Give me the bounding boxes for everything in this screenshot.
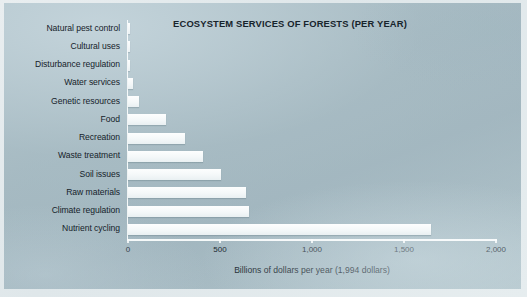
chart-category-row: Nutrient cycling bbox=[4, 221, 521, 239]
chart-category-row: Climate regulation bbox=[4, 203, 521, 221]
chart-plate: ECOSYSTEM SERVICES OF FORESTS (PER YEAR)… bbox=[4, 3, 521, 289]
chart-title: ECOSYSTEM SERVICES OF FORESTS (PER YEAR) bbox=[160, 18, 420, 29]
figure-frame: ECOSYSTEM SERVICES OF FORESTS (PER YEAR)… bbox=[0, 0, 527, 297]
bar[interactable] bbox=[128, 133, 185, 144]
bar[interactable] bbox=[128, 169, 221, 180]
category-label: Climate regulation bbox=[4, 205, 120, 215]
bar-wrapper bbox=[128, 60, 130, 71]
bar[interactable] bbox=[128, 41, 130, 52]
bar[interactable] bbox=[128, 60, 130, 71]
bar-wrapper bbox=[128, 23, 130, 34]
bar[interactable] bbox=[128, 96, 139, 107]
bar[interactable] bbox=[128, 206, 249, 217]
chart-category-row: Cultural uses bbox=[4, 38, 521, 56]
chart-category-row: Soil issues bbox=[4, 166, 521, 184]
chart-category-row: Water services bbox=[4, 75, 521, 93]
chart-category-row: Raw materials bbox=[4, 184, 521, 202]
category-label: Recreation bbox=[4, 132, 120, 142]
bar-wrapper bbox=[128, 151, 203, 162]
category-label: Disturbance regulation bbox=[4, 59, 120, 69]
category-label: Nutrient cycling bbox=[4, 223, 120, 233]
category-label: Soil issues bbox=[4, 169, 120, 179]
chart-category-row: Genetic resources bbox=[4, 93, 521, 111]
category-label: Natural pest control bbox=[4, 23, 120, 33]
bar-wrapper bbox=[128, 41, 130, 52]
bar-wrapper bbox=[128, 224, 431, 235]
bar[interactable] bbox=[128, 23, 130, 34]
bar[interactable] bbox=[128, 151, 203, 162]
bar-wrapper bbox=[128, 114, 166, 125]
category-label: Water services bbox=[4, 77, 120, 87]
chart-category-row: Recreation bbox=[4, 130, 521, 148]
bar-wrapper bbox=[128, 206, 249, 217]
chart-category-row: Disturbance regulation bbox=[4, 57, 521, 75]
bar-wrapper bbox=[128, 78, 133, 89]
category-label: Raw materials bbox=[4, 187, 120, 197]
bar[interactable] bbox=[128, 224, 431, 235]
bar[interactable] bbox=[128, 114, 166, 125]
bar[interactable] bbox=[128, 78, 133, 89]
category-label: Waste treatment bbox=[4, 150, 120, 160]
bar-wrapper bbox=[128, 133, 185, 144]
category-label: Food bbox=[4, 114, 120, 124]
chart-category-row: Food bbox=[4, 111, 521, 129]
bar-wrapper bbox=[128, 169, 221, 180]
plot-area: Natural pest controlCultural usesDisturb… bbox=[4, 3, 521, 289]
bar-wrapper bbox=[128, 187, 246, 198]
category-label: Cultural uses bbox=[4, 41, 120, 51]
chart-category-row: Waste treatment bbox=[4, 148, 521, 166]
category-label: Genetic resources bbox=[4, 96, 120, 106]
bar[interactable] bbox=[128, 187, 246, 198]
bar-wrapper bbox=[128, 96, 139, 107]
